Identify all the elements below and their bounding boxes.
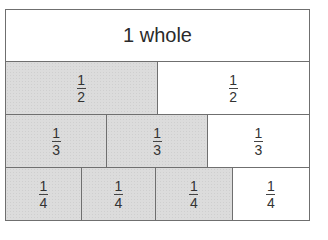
numerator: 1 <box>267 179 275 193</box>
denominator: 2 <box>77 90 85 104</box>
numerator: 1 <box>229 73 237 87</box>
fraction: 1 3 <box>153 126 162 157</box>
half-cell: 1 2 <box>6 62 158 114</box>
third-cell: 1 3 <box>107 115 208 167</box>
fraction: 1 4 <box>39 179 48 210</box>
numerator: 1 <box>39 179 47 193</box>
quarter-cell: 1 4 <box>6 168 82 220</box>
numerator: 1 <box>52 126 60 140</box>
numerator: 1 <box>115 179 123 193</box>
fraction: 1 4 <box>189 179 198 210</box>
third-cell: 1 3 <box>208 115 309 167</box>
row-thirds: 1 3 1 3 1 3 <box>5 114 310 168</box>
whole-label: 1 whole <box>123 24 192 47</box>
numerator: 1 <box>153 126 161 140</box>
denominator: 3 <box>255 143 263 157</box>
fraction: 1 4 <box>266 179 275 210</box>
quarter-cell: 1 4 <box>82 168 157 220</box>
denominator: 2 <box>229 90 237 104</box>
denominator: 4 <box>267 196 275 210</box>
row-quarters: 1 4 1 4 1 4 1 4 <box>5 167 310 221</box>
denominator: 4 <box>39 196 47 210</box>
denominator: 3 <box>153 143 161 157</box>
fraction: 1 2 <box>77 73 86 104</box>
third-cell: 1 3 <box>6 115 107 167</box>
denominator: 3 <box>52 143 60 157</box>
half-cell: 1 2 <box>158 62 310 114</box>
row-whole: 1 whole <box>5 9 310 62</box>
fraction: 1 4 <box>114 179 123 210</box>
denominator: 4 <box>115 196 123 210</box>
quarter-cell: 1 4 <box>233 168 309 220</box>
numerator: 1 <box>77 73 85 87</box>
numerator: 1 <box>255 126 263 140</box>
fraction: 1 3 <box>254 126 263 157</box>
numerator: 1 <box>190 179 198 193</box>
quarter-cell: 1 4 <box>156 168 232 220</box>
fraction: 1 3 <box>52 126 61 157</box>
denominator: 4 <box>190 196 198 210</box>
fraction: 1 2 <box>229 73 238 104</box>
row-halves: 1 2 1 2 <box>5 61 310 115</box>
whole-cell: 1 whole <box>6 10 309 61</box>
